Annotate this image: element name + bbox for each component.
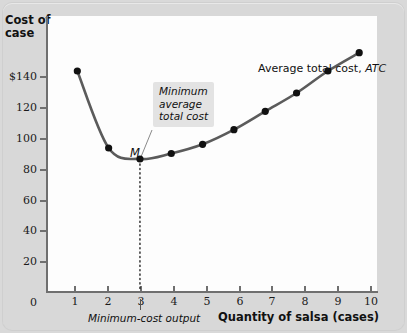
series-label-prefix: Average total cost, — [258, 62, 365, 75]
x-tick-label-2: 2 — [95, 295, 121, 308]
y-tick-label-0: 0 — [0, 296, 37, 309]
x-tick-9 — [337, 286, 339, 293]
minimum-average-total-cost-callout: Minimum average total cost — [153, 82, 214, 127]
callout-line-3: total cost — [159, 110, 208, 123]
minimum-cost-output-tick — [140, 299, 141, 310]
y-tick-label-60: 60 — [0, 194, 37, 207]
minimum-point-label: M — [130, 146, 140, 160]
y-tick-label-100: 100 — [0, 132, 37, 145]
series-label-abbr: ATC — [365, 62, 386, 75]
x-tick-10 — [370, 286, 372, 293]
series-label-atc: Average total cost, ATC — [258, 62, 386, 75]
x-tick-3 — [140, 286, 142, 293]
y-tick-label-40: 40 — [0, 224, 37, 237]
x-tick-label-3: 3 — [128, 295, 154, 308]
y-tick-label-20: 20 — [0, 255, 37, 268]
y-tick-100 — [40, 138, 47, 140]
y-tick-40 — [40, 230, 47, 232]
y-axis-line — [46, 16, 48, 293]
x-tick-label-5: 5 — [194, 295, 220, 308]
y-tick-60 — [40, 200, 47, 202]
y-tick-label-140: $140 — [0, 70, 37, 83]
x-tick-5 — [206, 286, 208, 293]
chart-figure: Cost of case Quantity of salsa (cases) $… — [0, 0, 407, 333]
x-tick-label-10: 10 — [358, 295, 384, 308]
x-tick-7 — [271, 286, 273, 293]
x-tick-label-9: 9 — [325, 295, 351, 308]
y-axis-title: Cost of case — [5, 14, 51, 40]
y-axis-title-line2: case — [5, 27, 51, 40]
y-tick-140 — [40, 76, 47, 78]
y-tick-label-80: 80 — [0, 163, 37, 176]
callout-line-2: average — [159, 98, 208, 111]
y-tick-120 — [40, 107, 47, 109]
x-axis-title: Quantity of salsa (cases) — [218, 310, 379, 324]
x-axis-line — [46, 291, 378, 293]
plot-canvas — [47, 16, 377, 292]
x-tick-label-6: 6 — [227, 295, 253, 308]
x-tick-1 — [74, 286, 76, 293]
callout-line-1: Minimum — [159, 85, 208, 98]
x-tick-4 — [173, 286, 175, 293]
x-tick-6 — [239, 286, 241, 293]
x-tick-label-4: 4 — [161, 295, 187, 308]
x-tick-8 — [304, 286, 306, 293]
x-tick-label-8: 8 — [292, 295, 318, 308]
y-tick-label-120: 120 — [0, 101, 37, 114]
y-tick-80 — [40, 169, 47, 171]
x-tick-label-1: 1 — [62, 295, 88, 308]
x-tick-2 — [107, 286, 109, 293]
minimum-cost-output-label: Minimum-cost output — [88, 312, 200, 324]
x-tick-label-7: 7 — [259, 295, 285, 308]
y-tick-20 — [40, 261, 47, 263]
